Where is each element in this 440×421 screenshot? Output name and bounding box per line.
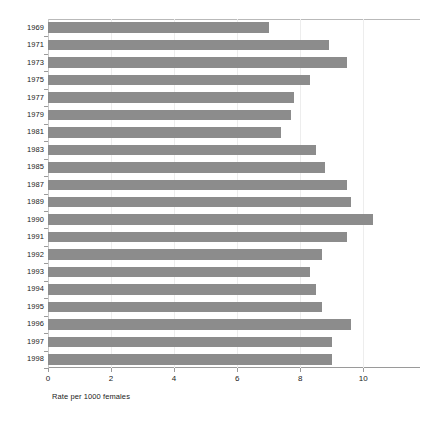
bar-1969 <box>48 22 269 33</box>
x-axis-tick-10 <box>363 368 364 372</box>
bar-1979 <box>48 110 291 121</box>
bar-1977 <box>48 92 294 103</box>
bar-row <box>48 57 420 68</box>
bar-row <box>48 145 420 156</box>
y-axis-label-1969: 1969 <box>4 24 44 32</box>
y-axis-label-1989: 1989 <box>4 198 44 206</box>
bar-chart: 1969197119731975197719791981198319851987… <box>0 0 440 421</box>
y-axis-tick <box>44 246 48 247</box>
bar-row <box>48 232 420 243</box>
y-axis-tick <box>44 54 48 55</box>
x-axis-label-8: 8 <box>285 374 315 383</box>
y-axis-label-1997: 1997 <box>4 338 44 346</box>
bar-1987 <box>48 180 347 191</box>
y-axis-tick <box>44 211 48 212</box>
y-axis-label-1977: 1977 <box>4 94 44 102</box>
bar-1992 <box>48 249 322 260</box>
y-axis-tick <box>44 351 48 352</box>
bar-row <box>48 214 420 225</box>
y-axis-tick <box>44 333 48 334</box>
y-axis-tick <box>44 316 48 317</box>
y-axis-labels: 1969197119731975197719791981198319851987… <box>0 0 44 421</box>
y-axis-tick <box>44 159 48 160</box>
y-axis-tick <box>44 141 48 142</box>
bar-1995 <box>48 302 322 313</box>
bar-row <box>48 319 420 330</box>
bar-row <box>48 267 420 278</box>
y-axis-label-1979: 1979 <box>4 111 44 119</box>
y-axis-tick <box>44 106 48 107</box>
y-axis-label-1991: 1991 <box>4 233 44 241</box>
y-axis-label-1995: 1995 <box>4 303 44 311</box>
bar-1975 <box>48 75 310 86</box>
bar-1991 <box>48 232 347 243</box>
y-axis-tick <box>44 71 48 72</box>
bar-row <box>48 284 420 295</box>
bar-row <box>48 162 420 173</box>
x-axis-tick-2 <box>111 368 112 372</box>
y-axis-label-1994: 1994 <box>4 285 44 293</box>
bar-row <box>48 249 420 260</box>
bar-row <box>48 337 420 348</box>
y-axis-label-1981: 1981 <box>4 128 44 136</box>
bar-1973 <box>48 57 347 68</box>
bar-1985 <box>48 162 325 173</box>
x-axis-label-6: 6 <box>222 374 252 383</box>
y-axis-label-1987: 1987 <box>4 181 44 189</box>
x-axis-tick-4 <box>174 368 175 372</box>
x-axis-title: Rate per 1000 females <box>52 392 130 401</box>
bar-row <box>48 40 420 51</box>
y-axis-tick <box>44 176 48 177</box>
bar-row <box>48 110 420 121</box>
bar-1971 <box>48 40 329 51</box>
y-axis-tick <box>44 298 48 299</box>
bar-1997 <box>48 337 332 348</box>
x-axis-label-2: 2 <box>96 374 126 383</box>
bar-1994 <box>48 284 316 295</box>
y-axis-label-1971: 1971 <box>4 41 44 49</box>
x-axis-tick-0 <box>48 368 49 372</box>
y-axis-tick <box>44 36 48 37</box>
bar-1996 <box>48 319 351 330</box>
bar-row <box>48 75 420 86</box>
y-axis-label-1996: 1996 <box>4 320 44 328</box>
bar-row <box>48 354 420 365</box>
y-axis-label-1973: 1973 <box>4 59 44 67</box>
bar-1989 <box>48 197 351 208</box>
x-axis-tick-6 <box>237 368 238 372</box>
y-axis-label-1983: 1983 <box>4 146 44 154</box>
x-axis-label-10: 10 <box>348 374 378 383</box>
bar-1981 <box>48 127 281 138</box>
bar-1990 <box>48 214 373 225</box>
y-axis-tick <box>44 281 48 282</box>
y-axis-label-1985: 1985 <box>4 163 44 171</box>
plot-area <box>48 19 420 368</box>
bar-row <box>48 127 420 138</box>
bar-1983 <box>48 145 316 156</box>
y-axis-tick <box>44 124 48 125</box>
x-axis-label-4: 4 <box>159 374 189 383</box>
bars-layer <box>48 19 420 368</box>
y-axis-tick <box>44 228 48 229</box>
y-axis-label-1993: 1993 <box>4 268 44 276</box>
bar-1998 <box>48 354 332 365</box>
x-axis-label-0: 0 <box>33 374 63 383</box>
bar-row <box>48 302 420 313</box>
x-axis-tick-8 <box>300 368 301 372</box>
y-axis-label-1992: 1992 <box>4 251 44 259</box>
bar-row <box>48 92 420 103</box>
bar-row <box>48 180 420 191</box>
y-axis-label-1990: 1990 <box>4 216 44 224</box>
y-axis-tick <box>44 194 48 195</box>
y-axis-tick <box>44 89 48 90</box>
y-axis-tick <box>44 263 48 264</box>
bar-row <box>48 22 420 33</box>
bar-row <box>48 197 420 208</box>
bar-1993 <box>48 267 310 278</box>
y-axis-label-1998: 1998 <box>4 355 44 363</box>
y-axis-label-1975: 1975 <box>4 76 44 84</box>
